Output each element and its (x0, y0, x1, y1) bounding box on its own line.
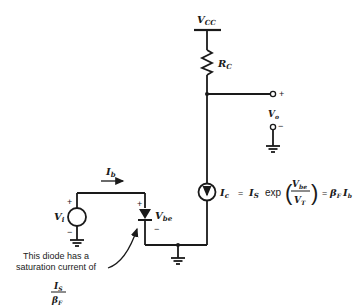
svg-text:Vo: Vo (268, 109, 279, 120)
svg-text:−: − (154, 224, 159, 234)
current-source-ic (199, 184, 216, 201)
svg-text:−: − (278, 121, 283, 131)
svg-text:+: + (279, 89, 284, 99)
svg-text:βF: βF (51, 295, 63, 306)
svg-text:saturation current of: saturation current of (16, 262, 97, 272)
svg-text:Vbe: Vbe (292, 179, 307, 190)
svg-text:): ) (311, 180, 318, 205)
svg-text:VT: VT (294, 195, 306, 206)
svg-text:=: = (238, 188, 243, 198)
base-current-label: Ib (101, 166, 123, 181)
svg-text:+: + (67, 197, 72, 207)
input-voltage-source: + − Vi (54, 197, 86, 246)
vcc-supply: VCC (194, 14, 221, 30)
svg-text:This diode has a: This diode has a (23, 251, 89, 261)
resistor-rc: RC (202, 50, 232, 75)
collector-current-equation: Ic = IS exp ( Vbe VT ) = βF Ib (219, 179, 352, 206)
svg-text:IS: IS (248, 187, 259, 200)
svg-text:Vbe: Vbe (155, 210, 173, 223)
base-emitter-diode: + − Vbe (137, 199, 173, 245)
svg-text:Ib: Ib (105, 166, 116, 179)
svg-text:−: − (67, 227, 72, 237)
circuit-diagram: VCC RC + Vo − Ic = IS exp ( Vbe VT ) (0, 0, 355, 308)
svg-text:βF: βF (329, 187, 342, 199)
svg-text:VCC: VCC (197, 14, 216, 27)
svg-text:=: = (322, 188, 327, 198)
svg-text:IS: IS (53, 281, 63, 292)
svg-text:exp: exp (265, 187, 282, 198)
svg-text:Vi: Vi (54, 211, 65, 224)
svg-text:Ib: Ib (342, 187, 352, 199)
svg-text:Ic: Ic (219, 187, 230, 200)
svg-text:RC: RC (217, 58, 232, 71)
svg-text:+: + (137, 199, 142, 209)
output-terminal: + Vo − (207, 89, 284, 152)
ground-symbol (171, 245, 185, 264)
